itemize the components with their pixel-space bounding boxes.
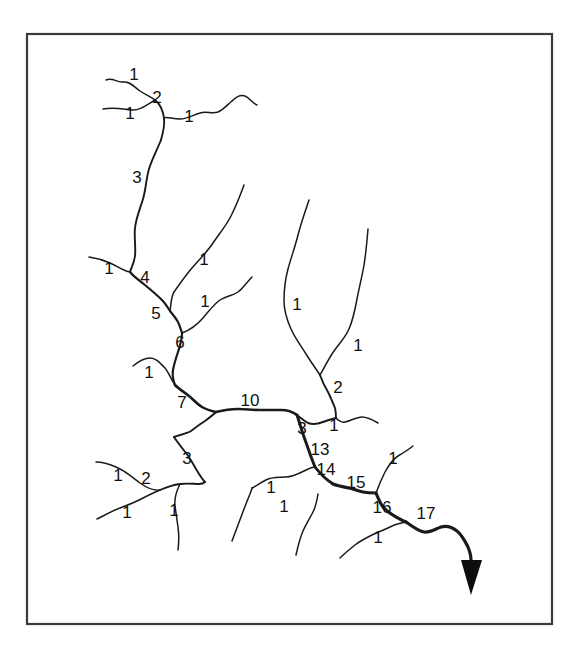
stream-order-label: 1 xyxy=(113,466,122,485)
stream-order-label: 1 xyxy=(129,65,138,84)
stream-order-label: 1 xyxy=(292,295,301,314)
stream-order-label: 15 xyxy=(347,473,366,492)
stream-order-label: 2 xyxy=(152,88,161,107)
stream-order-label: 1 xyxy=(279,497,288,516)
stream-order-label: 4 xyxy=(140,268,149,287)
stream-order-label: 1 xyxy=(388,449,397,468)
stream-order-label: 13 xyxy=(311,440,330,459)
stream-order-label: 1 xyxy=(199,250,208,269)
stream-order-label: 1 xyxy=(373,528,382,547)
stream-network-figure: 121131415161710112311314151161711132111 xyxy=(0,0,578,646)
stream-order-label: 1 xyxy=(169,501,178,520)
stream-order-label: 7 xyxy=(177,393,186,412)
stream-order-label: 3 xyxy=(182,449,191,468)
stream-network-canvas: 121131415161710112311314151161711132111 xyxy=(0,0,578,646)
stream-order-label: 1 xyxy=(104,259,113,278)
stream-order-label: 1 xyxy=(122,503,131,522)
stream-order-label: 1 xyxy=(144,363,153,382)
stream-order-label: 1 xyxy=(353,336,362,355)
stream-order-label: 1 xyxy=(184,107,193,126)
stream-order-label: 2 xyxy=(333,378,342,397)
stream-order-label: 1 xyxy=(329,416,338,435)
stream-order-label: 1 xyxy=(125,104,134,123)
stream-order-label: 14 xyxy=(317,460,336,479)
stream-order-label: 3 xyxy=(132,168,141,187)
stream-order-label: 1 xyxy=(200,292,209,311)
stream-order-label: 6 xyxy=(175,333,184,352)
stream-order-label: 3 xyxy=(297,419,306,438)
figure-frame xyxy=(27,34,552,624)
stream-order-label: 17 xyxy=(417,504,436,523)
stream-order-label: 2 xyxy=(141,469,150,488)
stream-order-label: 1 xyxy=(266,478,275,497)
stream-order-label: 5 xyxy=(151,304,160,323)
stream-order-label: 16 xyxy=(373,498,392,517)
stream-order-label: 10 xyxy=(241,391,260,410)
